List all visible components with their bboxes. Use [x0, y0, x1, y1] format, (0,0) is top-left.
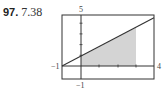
- x-max-label: 4: [157, 62, 161, 71]
- y-min-label: −1: [76, 81, 85, 90]
- graph-window: 5 −1 −1 4: [0, 0, 168, 90]
- x-min-label: −1: [51, 62, 60, 71]
- y-max-label: 5: [79, 5, 83, 14]
- shaded-area: [81, 28, 136, 67]
